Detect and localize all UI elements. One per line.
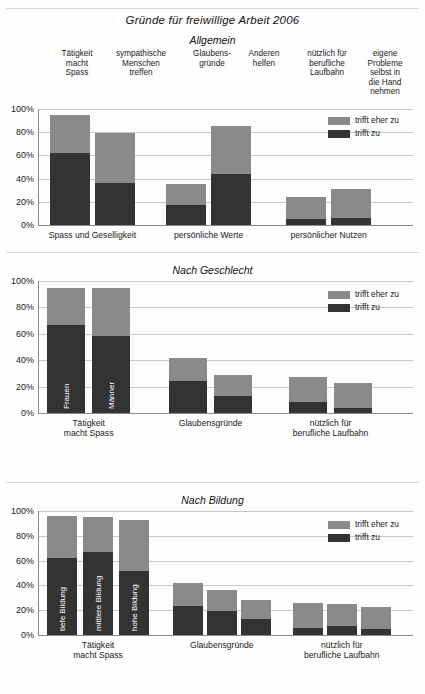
legend-swatch-trifft-zu bbox=[328, 534, 350, 542]
bar-segment-trifft-eher-zu bbox=[289, 377, 327, 402]
gridline-0 bbox=[38, 413, 413, 414]
panel-title-nach-geschlecht: Nach Geschlecht bbox=[0, 264, 425, 277]
column-header-line: Anderen bbox=[238, 49, 290, 59]
y-axis-tick-80: 80% bbox=[16, 127, 34, 137]
panel-allgemein: Allgemein TätigkeitmachtSpasssympathisch… bbox=[0, 34, 425, 250]
bar-inline-label: tiefe Bildung bbox=[58, 587, 67, 631]
legend-swatch-trifft-eher-zu bbox=[328, 117, 350, 125]
x-axis-group-label-allgemein-2: persönlicher Nutzen bbox=[282, 230, 376, 240]
y-axis-line bbox=[38, 281, 39, 413]
x-axis-group-label-nach-geschlecht-2: nützlich fürberufliche Laufbahn bbox=[284, 418, 378, 438]
bar-segment-trifft-eher-zu bbox=[327, 604, 357, 626]
y-axis-tick-60: 60% bbox=[16, 329, 34, 339]
bar-segment-trifft-zu bbox=[241, 619, 271, 635]
bar-segment-trifft-eher-zu bbox=[286, 197, 326, 219]
x-axis-group-label-line: Glaubensgründe bbox=[164, 418, 258, 428]
legend-row: trifft zu bbox=[328, 532, 399, 543]
bar-segment-trifft-eher-zu bbox=[50, 115, 90, 153]
bar-segment-trifft-eher-zu bbox=[119, 520, 149, 571]
y-axis-tick-100: 100% bbox=[11, 276, 34, 286]
bar-segment-trifft-eher-zu bbox=[47, 516, 77, 558]
bar-nach-geschlecht-1: Männer bbox=[92, 288, 130, 413]
column-header-line: selbst in bbox=[356, 68, 414, 78]
x-axis-group-label-line: nützlich für bbox=[287, 640, 396, 650]
legend-row: trifft eher zu bbox=[328, 115, 399, 126]
legend-label-trifft-eher-zu: trifft eher zu bbox=[355, 115, 399, 126]
column-header-line: Spass bbox=[48, 68, 106, 78]
bar-segment-trifft-eher-zu bbox=[334, 383, 372, 408]
gridline-0 bbox=[38, 225, 413, 226]
bar-segment-trifft-zu bbox=[173, 606, 203, 635]
bar-inline-label: mittlere Bildung bbox=[94, 576, 103, 631]
column-header-line: Tätigkeit bbox=[48, 49, 106, 59]
bar-segment-trifft-zu bbox=[166, 205, 206, 225]
column-header-line: helfen bbox=[238, 59, 290, 69]
y-axis-tick-40: 40% bbox=[16, 174, 34, 184]
bar-nach-bildung-5 bbox=[241, 600, 271, 635]
x-axis-group-label-line: nützlich für bbox=[284, 418, 378, 428]
legend-label-trifft-eher-zu: trifft eher zu bbox=[355, 289, 399, 300]
bar-segment-trifft-zu bbox=[50, 153, 90, 225]
legend-nach-geschlecht: trifft eher zutrifft zu bbox=[328, 289, 399, 315]
legend-allgemein: trifft eher zutrifft zu bbox=[328, 115, 399, 141]
bar-segment-trifft-zu bbox=[334, 408, 372, 413]
x-axis-group-label-nach-geschlecht-1: Glaubensgründe bbox=[164, 418, 258, 428]
bar-segment-trifft-zu bbox=[169, 381, 207, 413]
bar-inline-label: Frauen bbox=[62, 384, 71, 409]
bar-segment-trifft-eher-zu bbox=[331, 189, 371, 218]
plot-area-nach-geschlecht: 0%20%40%60%80%100%FrauenMännertrifft ehe… bbox=[38, 281, 413, 413]
legend-row: trifft zu bbox=[328, 302, 399, 313]
panel-title-nach-bildung: Nach Bildung bbox=[0, 494, 425, 507]
bar-segment-trifft-eher-zu bbox=[211, 126, 251, 174]
y-axis-tick-0: 0% bbox=[21, 408, 34, 418]
column-header-4: nützlich fürberuflicheLaufbahn bbox=[296, 49, 358, 78]
legend-row: trifft eher zu bbox=[328, 289, 399, 300]
x-axis-group-label-nach-geschlecht-0: Tätigkeitmacht Spass bbox=[42, 418, 136, 438]
column-header-line: Glaubens- bbox=[186, 49, 238, 59]
column-header-row: TätigkeitmachtSpasssympathischeMenschent… bbox=[0, 49, 425, 107]
bar-segment-trifft-zu bbox=[331, 218, 371, 225]
y-axis-line bbox=[38, 511, 39, 635]
x-axis-group-label-line: Tätigkeit bbox=[42, 418, 136, 428]
y-axis-tick-100: 100% bbox=[11, 104, 34, 114]
legend-swatch-trifft-zu bbox=[328, 130, 350, 138]
column-header-line: treffen bbox=[104, 68, 178, 78]
bar-segment-trifft-zu bbox=[207, 611, 237, 635]
plot-area-nach-bildung: 0%20%40%60%80%100%tiefe Bildungmittlere … bbox=[38, 511, 413, 635]
y-axis-tick-40: 40% bbox=[16, 580, 34, 590]
bar-segment-trifft-eher-zu bbox=[293, 603, 323, 628]
bar-segment-trifft-eher-zu bbox=[47, 288, 85, 325]
bar-nach-bildung-6 bbox=[293, 603, 323, 635]
bar-segment-trifft-zu bbox=[293, 628, 323, 635]
bar-allgemein-3 bbox=[211, 126, 251, 225]
chart-page: Gründe für freiwillige Arbeit 2006 Allge… bbox=[0, 0, 425, 694]
column-header-1: sympathischeMenschentreffen bbox=[104, 49, 178, 78]
x-axis-group-label-allgemein-1: persönliche Werte bbox=[162, 230, 256, 240]
column-header-line: Laufbahn bbox=[296, 68, 358, 78]
bar-nach-geschlecht-0: Frauen bbox=[47, 288, 85, 413]
x-axis-group-label-line: berufliche Laufbahn bbox=[287, 650, 396, 660]
bar-segment-trifft-eher-zu bbox=[92, 288, 130, 337]
bar-segment-trifft-zu bbox=[214, 396, 252, 413]
column-header-line: nehmen bbox=[356, 87, 414, 97]
bar-nach-bildung-1: mittlere Bildung bbox=[83, 517, 113, 635]
bar-segment-trifft-eher-zu bbox=[241, 600, 271, 619]
bar-nach-geschlecht-3 bbox=[214, 375, 252, 413]
bar-nach-bildung-0: tiefe Bildung bbox=[47, 516, 77, 635]
bar-nach-geschlecht-2 bbox=[169, 358, 207, 413]
x-axis-group-label-line: macht Spass bbox=[42, 428, 136, 438]
bar-segment-trifft-zu bbox=[286, 219, 326, 225]
x-axis-group-label-nach-bildung-2: nützlich fürberufliche Laufbahn bbox=[287, 640, 396, 660]
x-axis-group-label-line: macht Spass bbox=[42, 650, 155, 660]
bar-segment-trifft-zu bbox=[95, 183, 135, 225]
bar-segment-trifft-eher-zu bbox=[207, 590, 237, 611]
bar-nach-geschlecht-5 bbox=[334, 383, 372, 413]
panel-nach-bildung: Nach Bildung 0%20%40%60%80%100%tiefe Bil… bbox=[0, 488, 425, 688]
x-axis-group-label-line: berufliche Laufbahn bbox=[284, 428, 378, 438]
bar-segment-trifft-eher-zu bbox=[95, 133, 135, 183]
gridline-100 bbox=[38, 511, 413, 512]
x-axis-group-label-nach-bildung-0: Tätigkeitmacht Spass bbox=[42, 640, 155, 660]
bar-segment-trifft-eher-zu bbox=[166, 184, 206, 205]
bar-nach-bildung-8 bbox=[361, 606, 391, 635]
column-header-line: berufliche bbox=[296, 59, 358, 69]
